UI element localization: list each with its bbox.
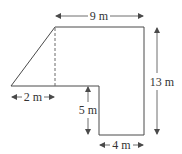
dimension-bottom-width: 4 m [100, 138, 143, 152]
shape-outline [11, 27, 144, 135]
dimension-step-height: 5 m [79, 87, 98, 134]
label-5m: 5 m [79, 103, 98, 117]
label-4m: 4 m [112, 138, 131, 152]
label-2m: 2 m [24, 90, 43, 104]
label-9m: 9 m [90, 9, 109, 23]
dimension-triangle-base: 2 m [12, 90, 54, 104]
composite-shape-diagram: 9 m 13 m 2 m 5 m 4 m [0, 0, 182, 154]
dimension-right-height: 13 m [150, 28, 175, 134]
label-13m: 13 m [150, 75, 175, 89]
dimension-top-width: 9 m [56, 9, 143, 23]
